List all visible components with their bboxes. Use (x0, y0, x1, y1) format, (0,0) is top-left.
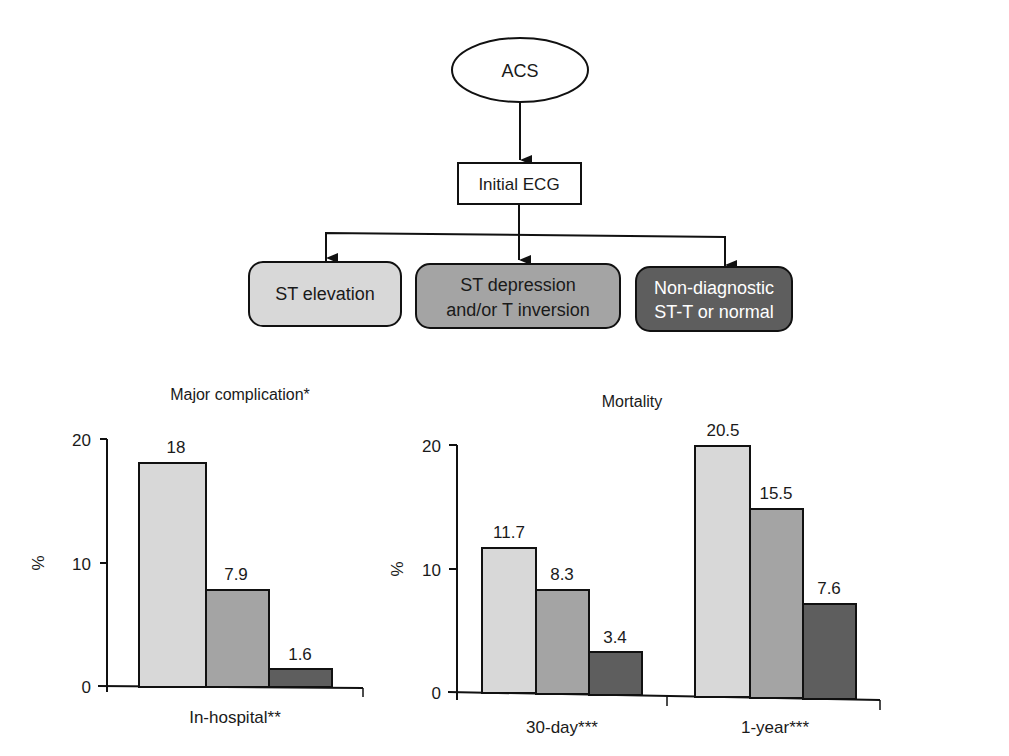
y-tick-label-20: 20 (422, 437, 441, 456)
x-category-label: In-hospital** (189, 708, 281, 727)
st-elevation-label: ST elevation (275, 284, 375, 304)
y-tick-label-0: 0 (432, 684, 441, 703)
bar-30day-st-depression (536, 590, 589, 694)
bar-value-label: 20.5 (706, 421, 739, 440)
acs-label: ACS (501, 61, 538, 81)
chart-title: Major complication* (170, 386, 310, 403)
st-depression-label-1: ST depression (460, 275, 576, 295)
chart-title: Mortality (602, 393, 662, 410)
st-depression-label-2: and/or T inversion (446, 300, 589, 320)
bar-value-label: 15.5 (759, 484, 792, 503)
bar-1year-st-elevation (695, 446, 750, 697)
bar-value-label: 18 (167, 438, 186, 457)
chart-mortality: Mortality 20 10 0 % 11.7 8.3 3.4 20.5 15… (388, 393, 880, 737)
x-category-label-1year: 1-year*** (741, 718, 809, 737)
flow-diagram: ACS Initial ECG ST elevation ST depressi… (249, 38, 792, 331)
bar-value-label: 1.6 (288, 645, 312, 664)
y-tick-label-10: 10 (72, 555, 91, 574)
bar-1year-st-depression (750, 509, 803, 698)
x-category-label-30day: 30-day*** (526, 718, 598, 737)
non-diagnostic-label-2: ST-T or normal (654, 302, 774, 322)
bar-value-label: 7.9 (224, 565, 248, 584)
bar-30day-st-elevation (482, 548, 536, 693)
bar-value-label: 7.6 (817, 579, 841, 598)
y-tick-label-20: 20 (72, 431, 91, 450)
chart-major-complication: Major complication* 20 10 0 % 18 7.9 1.6… (29, 386, 363, 727)
bar-st-elevation (139, 463, 206, 687)
bar-value-label: 11.7 (493, 523, 525, 542)
y-axis-label: % (388, 561, 407, 576)
initial-ecg-label: Initial ECG (478, 175, 559, 194)
bar-value-label: 3.4 (603, 628, 627, 647)
y-axis-label: % (29, 555, 48, 570)
bar-non-diagnostic (269, 669, 332, 687)
y-tick-label-0: 0 (82, 678, 91, 697)
bar-1year-non-diagnostic (803, 604, 856, 699)
y-tick-label-10: 10 (422, 561, 441, 580)
figure: ACS Initial ECG ST elevation ST depressi… (0, 0, 1009, 756)
bar-30day-non-diagnostic (589, 652, 642, 695)
non-diagnostic-label-1: Non-diagnostic (654, 278, 774, 298)
bar-value-label: 8.3 (550, 565, 574, 584)
bar-st-depression (206, 590, 269, 687)
